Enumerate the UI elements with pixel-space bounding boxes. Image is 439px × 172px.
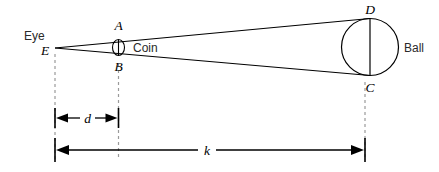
dim-k-arrow-left [56, 145, 69, 155]
coin-bottom-label: B [114, 59, 122, 74]
ball-shape [342, 19, 399, 76]
coin-word-label: Coin [133, 41, 158, 55]
eye-word-label: Eye [24, 29, 45, 43]
figure-canvas: Eye E A B Coin D C Ball d k [0, 0, 439, 172]
sight-line-lower [55, 48, 370, 76]
eye-point-label: E [40, 43, 50, 58]
dim-d-arrow-right [106, 114, 118, 123]
projection-lines [55, 54, 365, 160]
dim-k-arrow-right [351, 145, 364, 155]
sight-lines [55, 19, 370, 76]
dimension-k [55, 138, 365, 162]
dim-d-arrow-left [56, 114, 68, 123]
geometry-diagram: Eye E A B Coin D C Ball d k [0, 0, 439, 172]
dimension-k-label: k [204, 143, 211, 158]
ball-top-label: D [364, 2, 375, 17]
coin-shape [113, 40, 125, 56]
ball-bottom-label: C [365, 80, 375, 95]
dimension-d-label: d [84, 111, 91, 126]
ball-word-label: Ball [404, 41, 424, 55]
coin-top-label: A [113, 18, 123, 33]
sight-line-upper [55, 19, 370, 49]
